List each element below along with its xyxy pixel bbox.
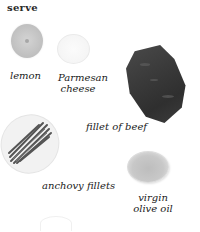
lemon-image — [11, 24, 43, 58]
beef-marbling — [162, 95, 174, 98]
parmesan-label-line-1: Parmesan — [58, 72, 98, 83]
parmesan-label-line-2: cheese — [58, 83, 98, 94]
beef-marbling — [140, 63, 150, 66]
beef-marbling — [150, 79, 158, 81]
partial-bowl-image — [40, 216, 72, 231]
section-heading: serve — [7, 2, 38, 13]
beef-image — [126, 45, 188, 123]
olive-oil-image — [127, 151, 169, 183]
parmesan-label: Parmesan cheese — [58, 72, 98, 94]
lemon-label: lemon — [10, 70, 41, 81]
parmesan-image — [57, 34, 90, 64]
anchovy-label: anchovy fillets — [42, 180, 115, 191]
olive-oil-label-line-2: olive oil — [128, 203, 178, 214]
anchovy-fillets-image — [7, 119, 53, 167]
beef-label: fillet of beef — [86, 121, 147, 132]
olive-oil-label: virgin olive oil — [128, 192, 178, 214]
lemon-center — [25, 39, 29, 43]
olive-oil-label-line-1: virgin — [128, 192, 178, 203]
